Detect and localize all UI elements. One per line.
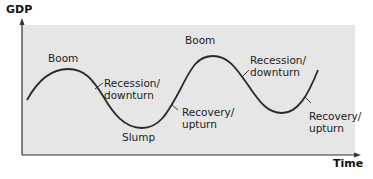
- label-recession-2-line1: Recession/: [250, 54, 306, 66]
- label-recovery-1-line1: Recovery/: [182, 106, 234, 118]
- leader-recovery-2: [305, 97, 311, 103]
- label-recovery-1-line2: upturn: [182, 118, 234, 130]
- label-recovery-2-line1: Recovery/: [309, 110, 361, 122]
- business-cycle-diagram: GDP Time Boom Recession/ downturn Slump …: [0, 0, 373, 179]
- label-slump: Slump: [122, 131, 155, 143]
- label-recession-1-line1: Recession/: [104, 77, 160, 89]
- label-recession-2-line2: downturn: [250, 66, 306, 78]
- label-boom-1: Boom: [48, 52, 78, 64]
- label-recession-1-line2: downturn: [104, 89, 160, 101]
- label-recession-2: Recession/ downturn: [250, 54, 306, 78]
- leader-recession-2: [242, 70, 249, 77]
- label-recession-1: Recession/ downturn: [104, 77, 160, 101]
- label-recovery-1: Recovery/ upturn: [182, 106, 234, 130]
- label-recovery-2: Recovery/ upturn: [309, 110, 361, 134]
- label-boom-2: Boom: [185, 34, 215, 46]
- y-axis-arrow-icon: [20, 18, 25, 25]
- y-axis-label: GDP: [6, 3, 32, 16]
- x-axis-label: Time: [333, 157, 363, 170]
- leader-recovery-1: [172, 105, 178, 110]
- label-recovery-2-line2: upturn: [309, 122, 361, 134]
- plot-canvas: [0, 0, 373, 179]
